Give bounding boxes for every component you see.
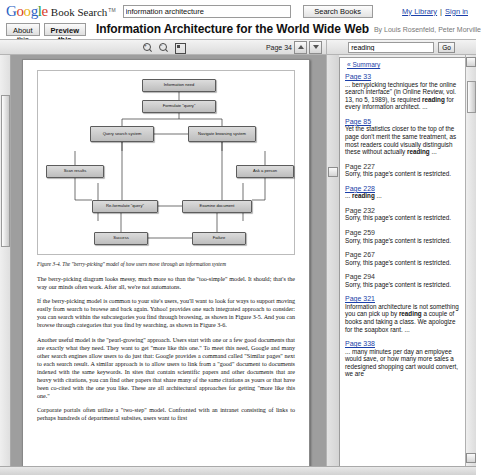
top-bar: Google Book Search TM Search Books My Li… bbox=[0, 0, 476, 22]
diagram-node: Query search system bbox=[90, 126, 154, 142]
page-title: Information Architecture for the World W… bbox=[96, 22, 369, 36]
search-in-book-input[interactable] bbox=[348, 42, 434, 53]
snippet-pre: Sorry, this page's content is restricted… bbox=[345, 259, 451, 266]
search-results-list: « Summary Page 33... berrypicking techni… bbox=[339, 57, 466, 469]
search-result-item: Page 228... reading ... bbox=[345, 185, 461, 200]
zoom-in-icon[interactable]: + bbox=[142, 42, 153, 53]
snippet-highlight: reading bbox=[422, 96, 445, 103]
status-bar bbox=[0, 466, 476, 475]
diagram-node: Examine document bbox=[182, 200, 252, 213]
zoom-controls: + − bbox=[142, 42, 185, 53]
search-books-button[interactable]: Search Books bbox=[303, 5, 373, 18]
snippet-highlight: reading bbox=[407, 148, 430, 155]
result-page-link[interactable]: Page 33 bbox=[345, 73, 461, 80]
book-title-row: About this book Preview this book Inform… bbox=[0, 22, 476, 39]
result-snippet: Yet the statistics closer to the top of … bbox=[345, 125, 461, 155]
search-result-item: Page 259Sorry, this page's content is re… bbox=[345, 229, 461, 244]
result-page-link: Page 232 bbox=[345, 207, 461, 214]
result-page-link: Page 259 bbox=[345, 229, 461, 236]
link-separator: | bbox=[440, 7, 442, 16]
diagram-node: Success bbox=[94, 232, 148, 245]
result-snippet: ... reading ... bbox=[345, 192, 461, 200]
sign-in-link[interactable]: Sign in bbox=[445, 7, 468, 16]
result-snippet: ... many minutes per day an employee wou… bbox=[345, 348, 461, 378]
result-page-link: Page 227 bbox=[345, 163, 461, 170]
search-result-item: Page 232Sorry, this page's content is re… bbox=[345, 207, 461, 222]
book-page: Information needFormulate "query"Query s… bbox=[22, 59, 310, 471]
body-paragraph: Corporate portals often utilize a "two-s… bbox=[37, 406, 295, 422]
search-result-item: Page 85Yet the statistics closer to the … bbox=[345, 118, 461, 156]
viewer-toolbar-left: + − Page 34 bbox=[0, 40, 327, 54]
snippet-pre: Sorry, this page's content is restricted… bbox=[345, 281, 451, 288]
page-up-icon[interactable] bbox=[294, 41, 307, 54]
results-scrollbar[interactable] bbox=[465, 55, 476, 475]
tab-preview-this-book[interactable]: Preview this book bbox=[44, 23, 86, 36]
viewer-toolbar-right: Go bbox=[327, 40, 476, 54]
result-snippet: Sorry, this page's content is restricted… bbox=[345, 170, 461, 178]
summary-link[interactable]: « Summary bbox=[347, 61, 461, 68]
diagram-node: Formulate "query" bbox=[142, 100, 216, 113]
results-scrollbar-thumb[interactable] bbox=[467, 81, 476, 113]
snippet-pre: Sorry, this page's content is restricted… bbox=[345, 170, 451, 177]
book-byline: By Louis Rosenfeld, Peter Morville bbox=[374, 26, 481, 33]
snippet-pre: Sorry, this page's content is restricted… bbox=[345, 214, 451, 221]
diagram-node: Information need bbox=[142, 79, 216, 92]
current-page-label: Page 34 bbox=[266, 44, 292, 51]
viewer-scrollbar[interactable] bbox=[0, 55, 11, 475]
result-page-link[interactable]: Page 85 bbox=[345, 118, 461, 125]
figure-diagram: Information needFormulate "query"Query s… bbox=[37, 70, 295, 255]
page-navigation: Page 34 bbox=[266, 41, 322, 54]
result-snippet: Sorry, this page's content is restricted… bbox=[345, 259, 461, 267]
diagram-node: Failure bbox=[192, 232, 246, 245]
search-result-item: Page 33... berrypicking techniques for t… bbox=[345, 73, 461, 111]
snippet-pre: ... bbox=[345, 192, 352, 199]
fullscreen-icon[interactable] bbox=[174, 42, 185, 53]
result-page-link[interactable]: Page 338 bbox=[345, 340, 461, 347]
zoom-out-icon[interactable]: − bbox=[158, 42, 169, 53]
result-page-link: Page 294 bbox=[345, 273, 461, 280]
result-snippet: Sorry, this page's content is restricted… bbox=[345, 281, 461, 289]
go-button[interactable]: Go bbox=[438, 42, 455, 53]
snippet-post: ... bbox=[430, 148, 437, 155]
book-page-viewer: Information needFormulate "query"Query s… bbox=[0, 55, 327, 475]
snippet-highlight: reading bbox=[399, 310, 422, 317]
body-paragraph: Another useful model is the "pearl-growi… bbox=[37, 336, 295, 401]
results-scroll-up-icon[interactable] bbox=[466, 57, 476, 67]
snippet-pre: Yet the statistics closer to the top of … bbox=[345, 125, 456, 155]
tab-about-this-book[interactable]: About this book bbox=[6, 23, 40, 36]
result-page-link[interactable]: Page 321 bbox=[345, 295, 461, 302]
search-result-item: Page 267Sorry, this page's content is re… bbox=[345, 251, 461, 266]
page-down-icon[interactable] bbox=[309, 41, 322, 54]
search-input[interactable] bbox=[123, 5, 291, 18]
diagram-node: Re-formulate "query" bbox=[92, 200, 158, 213]
viewer-toolbar: + − Page 34 Go bbox=[0, 39, 476, 55]
search-result-item: Page 294Sorry, this page's content is re… bbox=[345, 273, 461, 288]
search-result-item: Page 338... many minutes per day an empl… bbox=[345, 340, 461, 378]
diagram-connectors bbox=[38, 71, 298, 254]
google-wordmark: Google bbox=[6, 5, 48, 18]
viewer-scrollbar-thumb[interactable] bbox=[1, 95, 10, 247]
result-snippet: ... berrypicking techniques for the onli… bbox=[345, 81, 461, 111]
google-book-search-logo[interactable]: Google Book Search TM bbox=[6, 5, 116, 18]
results-left-gutter bbox=[327, 55, 339, 475]
search-results-panel: « Summary Page 33... berrypicking techni… bbox=[327, 55, 476, 475]
result-snippet: Sorry, this page's content is restricted… bbox=[345, 237, 461, 245]
result-snippet: Sorry, this page's content is restricted… bbox=[345, 214, 461, 222]
diagram-node: Scan results bbox=[46, 165, 104, 178]
search-result-item: Page 227Sorry, this page's content is re… bbox=[345, 163, 461, 178]
results-scroll-down-icon[interactable] bbox=[466, 453, 476, 463]
main-body: Information needFormulate "query"Query s… bbox=[0, 55, 476, 475]
trademark-mark: TM bbox=[108, 7, 115, 13]
snippet-pre: Sorry, this page's content is restricted… bbox=[345, 237, 451, 244]
results-collapse-handle[interactable] bbox=[328, 167, 338, 177]
result-page-link[interactable]: Page 228 bbox=[345, 185, 461, 192]
diagram-node: Ask a person bbox=[236, 165, 294, 178]
body-paragraph: If the berry-picking model is common to … bbox=[37, 297, 295, 329]
body-paragraph: The berry-picking diagram looks messy, m… bbox=[37, 275, 295, 291]
result-snippet: Information architecture is not somethin… bbox=[345, 303, 461, 333]
search-result-item: Page 321Information architecture is not … bbox=[345, 295, 461, 333]
page-body-text: The berry-picking diagram looks messy, m… bbox=[37, 275, 295, 423]
snippet-post: ... bbox=[375, 192, 382, 199]
my-library-link[interactable]: My Library bbox=[402, 7, 437, 16]
